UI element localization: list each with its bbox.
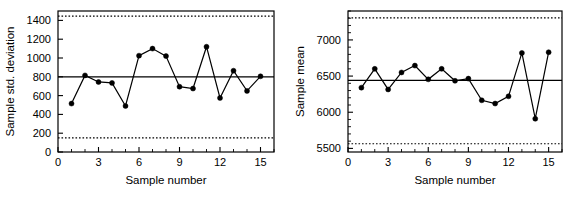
data-point: [177, 84, 182, 89]
data-point: [359, 85, 364, 90]
data-point: [150, 46, 155, 51]
data-point: [479, 98, 484, 103]
x-tick-label: 9: [176, 156, 182, 168]
data-point: [258, 74, 263, 79]
mean-chart-panel: 550060006500700003691215Sample numberSam…: [290, 0, 579, 200]
data-point: [412, 63, 417, 68]
y-tick-label: 6500: [317, 70, 341, 82]
x-tick-label: 6: [425, 156, 431, 168]
data-series-line: [361, 52, 548, 119]
y-tick-label: 1000: [27, 52, 51, 64]
x-axis-label: Sample number: [414, 174, 495, 186]
data-point: [83, 73, 88, 78]
y-tick-label: 1400: [27, 14, 51, 26]
y-tick-label: 200: [33, 127, 51, 139]
data-point: [245, 88, 250, 93]
plot-frame: [58, 11, 274, 152]
mean-chart: 550060006500700003691215Sample numberSam…: [290, 0, 579, 200]
data-point: [372, 66, 377, 71]
x-tick-label: 0: [55, 156, 61, 168]
data-point: [506, 94, 511, 99]
data-point: [231, 68, 236, 73]
x-tick-label: 15: [543, 156, 555, 168]
y-tick-label: 400: [33, 108, 51, 120]
data-point: [453, 78, 458, 83]
data-point: [386, 87, 391, 92]
y-axis-label: Sample std. deviation: [4, 27, 16, 137]
x-tick-label: 9: [465, 156, 471, 168]
data-point: [519, 50, 524, 55]
data-point: [218, 95, 223, 100]
x-axis-label: Sample number: [125, 174, 206, 186]
data-point: [69, 101, 74, 106]
x-tick-label: 3: [385, 156, 391, 168]
x-tick-label: 0: [345, 156, 351, 168]
x-tick-label: 6: [136, 156, 142, 168]
x-tick-label: 15: [254, 156, 266, 168]
data-point: [546, 50, 551, 55]
data-point: [439, 66, 444, 71]
x-tick-label: 12: [214, 156, 226, 168]
x-tick-label: 12: [502, 156, 514, 168]
data-point: [96, 79, 101, 84]
y-tick-label: 600: [33, 90, 51, 102]
data-point: [110, 80, 115, 85]
y-tick-label: 1200: [27, 33, 51, 45]
data-point: [533, 116, 538, 121]
figure-container: 020040060080010001200140003691215Sample …: [0, 0, 579, 200]
data-point: [164, 54, 169, 59]
std-deviation-chart-panel: 020040060080010001200140003691215Sample …: [0, 0, 289, 200]
x-tick-label: 3: [95, 156, 101, 168]
y-tick-label: 5500: [317, 142, 341, 154]
data-point: [399, 70, 404, 75]
data-point: [204, 44, 209, 49]
y-tick-label: 0: [45, 146, 51, 158]
data-point: [426, 77, 431, 82]
data-point: [137, 53, 142, 58]
y-tick-label: 7000: [317, 34, 341, 46]
y-tick-label: 6000: [317, 106, 341, 118]
data-point: [123, 103, 128, 108]
std-deviation-chart: 020040060080010001200140003691215Sample …: [0, 0, 289, 200]
y-tick-label: 800: [33, 71, 51, 83]
data-point: [493, 101, 498, 106]
y-axis-label: Sample mean: [294, 46, 306, 117]
data-point: [466, 76, 471, 81]
data-point: [191, 86, 196, 91]
